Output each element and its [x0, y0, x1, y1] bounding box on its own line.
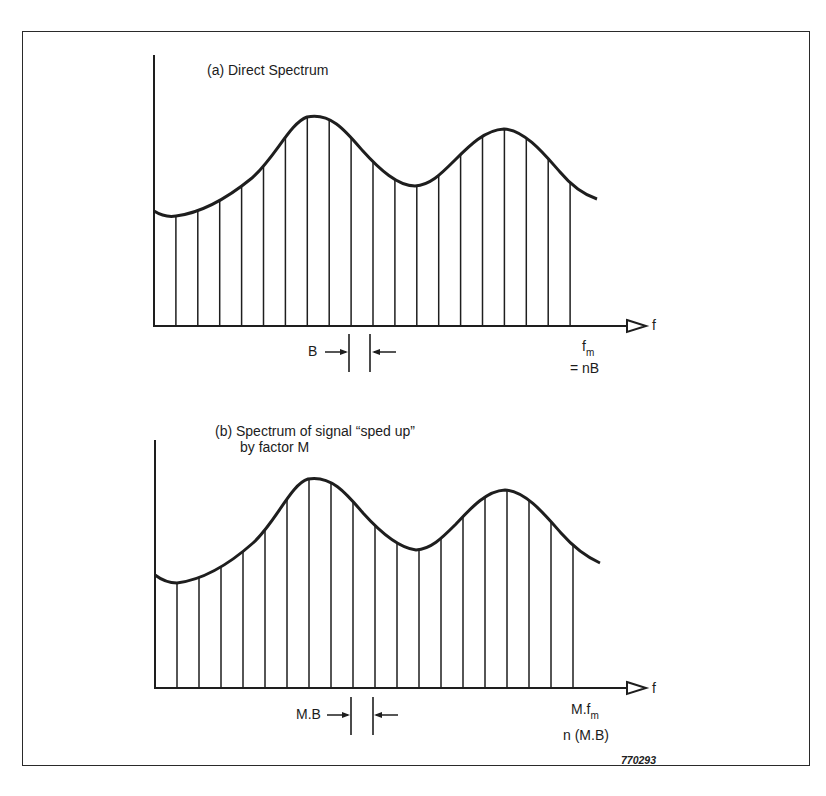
spectral-lines-a — [176, 117, 570, 326]
arrow-left-icon — [374, 712, 382, 718]
spectrum-diagram — [0, 0, 826, 796]
arrow-left-icon — [372, 349, 380, 355]
arrow-right-icon — [342, 712, 350, 718]
envelope-curve-a — [154, 116, 597, 216]
axis-label-f-b: f — [652, 680, 656, 697]
arrow-right-icon — [340, 349, 348, 355]
mfm-main: M.f — [571, 701, 590, 717]
mfm-sub: m — [590, 710, 598, 721]
fm-sub: m — [586, 347, 594, 358]
spacing-label-mb: M.B — [296, 706, 321, 723]
envelope-curve-b — [155, 478, 600, 583]
fm-label-a: fm — [582, 338, 594, 356]
fm-equals-nb: = nB — [570, 360, 599, 377]
panel-a-title: (a) Direct Spectrum — [207, 62, 328, 79]
axis-arrow-icon — [627, 682, 646, 694]
spacing-label-b: B — [308, 343, 317, 360]
panel-b-title-line2: by factor M — [240, 439, 309, 456]
panel-b-plot — [155, 440, 646, 735]
figure-id: 770293 — [621, 754, 656, 766]
panel-b-title-line1: (b) Spectrum of signal “sped up” — [215, 423, 415, 440]
n-mb-label: n (M.B) — [563, 727, 609, 744]
mfm-label-b: M.fm — [571, 701, 599, 719]
spectral-lines-b — [177, 479, 573, 688]
axis-arrow-icon — [627, 320, 646, 332]
axis-label-f-a: f — [652, 317, 656, 334]
panel-a-plot — [154, 55, 646, 372]
